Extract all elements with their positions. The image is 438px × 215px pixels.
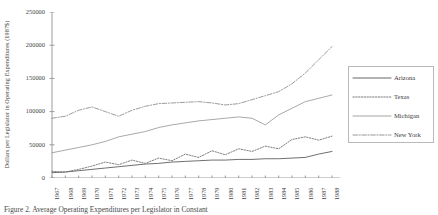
- legend-label: New York: [394, 131, 421, 138]
- x-axis-tick-label: 1968: [68, 188, 74, 200]
- legend-item-texas[interactable]: Texas: [349, 87, 433, 106]
- x-axis-tick-label: 1985: [294, 188, 300, 200]
- x-axis-tick-label: 1978: [201, 188, 207, 200]
- legend-item-arizona[interactable]: Arizona: [349, 68, 433, 87]
- y-axis-tick-label: 50000: [29, 142, 45, 148]
- series-line-arizona: [52, 151, 332, 172]
- x-axis-tick-label: 1986: [308, 188, 314, 200]
- legend-key-solid: [352, 73, 392, 83]
- legend-key-solid: [352, 111, 392, 121]
- x-axis-tick-label: 1983: [268, 188, 274, 200]
- x-axis-tick-label: 1976: [174, 188, 180, 200]
- series-line-new-york: [52, 47, 332, 119]
- figure-container: Dollars per Legislator in Operating Expe…: [0, 0, 438, 215]
- y-axis-tick-label: 200000: [26, 42, 45, 48]
- series-line-texas: [52, 136, 332, 172]
- x-axis-tick-label: 1972: [121, 188, 127, 200]
- x-axis-tick-label: 1974: [148, 188, 154, 200]
- y-axis-tick-label: 0: [42, 175, 45, 181]
- x-axis-tick-label: 1971: [108, 188, 114, 200]
- x-axis-tick-label: 1967: [54, 188, 60, 200]
- y-axis-tick-labels: 050000100000150000200000250000: [0, 0, 45, 190]
- legend-item-new-york[interactable]: New York: [349, 125, 433, 144]
- x-axis-tick-label: 1984: [281, 188, 287, 200]
- x-axis-tick-label: 1970: [94, 188, 100, 200]
- x-axis-tick-label: 1973: [134, 188, 140, 200]
- x-axis-tick-label: 1988: [334, 188, 340, 200]
- x-axis-tick-label: 1980: [228, 188, 234, 200]
- plot-svg: [48, 12, 340, 178]
- x-axis-tick-label: 1969: [81, 188, 87, 200]
- y-axis-tick-label: 150000: [26, 75, 45, 81]
- x-axis-tick-label: 1977: [188, 188, 194, 200]
- legend-item-michigan[interactable]: Michigan: [349, 106, 433, 125]
- series-line-michigan: [52, 95, 332, 153]
- x-axis-tick-label: 1982: [254, 188, 260, 200]
- x-axis-tick-label: 1979: [214, 188, 220, 200]
- legend-label: Texas: [394, 93, 409, 100]
- legend-box: ArizonaTexasMichiganNew York: [348, 66, 434, 143]
- plot-area: [48, 12, 340, 178]
- x-axis-tick-label: 1975: [161, 188, 167, 200]
- x-axis-tick-label: 1981: [241, 188, 247, 200]
- legend-key-dotted: [352, 92, 392, 102]
- legend-key-dashdot: [352, 130, 392, 140]
- y-axis-tick-label: 100000: [26, 108, 45, 114]
- legend-label: Arizona: [394, 74, 415, 81]
- y-axis-tick-label: 250000: [26, 9, 45, 15]
- x-axis-tick-label: 1987: [321, 188, 327, 200]
- figure-caption: Figure 2. Average Operating Expenditures…: [4, 205, 434, 215]
- legend-label: Michigan: [394, 112, 419, 119]
